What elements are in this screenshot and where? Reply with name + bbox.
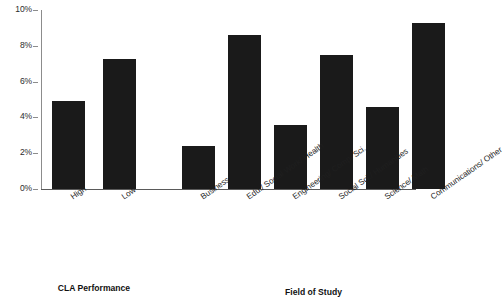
- y-tick-mark: [33, 153, 38, 154]
- y-tick-mark: [33, 189, 38, 190]
- bar: [52, 101, 85, 189]
- y-tick-mark: [33, 10, 38, 11]
- y-tick-label: 8%: [20, 40, 32, 50]
- y-tick-label: 6%: [20, 76, 32, 86]
- y-tick-label: 0%: [20, 183, 32, 193]
- bar: [412, 23, 445, 189]
- bar: [228, 35, 261, 189]
- y-tick-mark: [33, 46, 38, 47]
- y-tick-mark: [33, 82, 38, 83]
- group-title-cla-performance: CLA Performance: [4, 283, 184, 293]
- bar: [182, 146, 215, 189]
- bars-container: [41, 10, 416, 189]
- y-tick-label: 4%: [20, 111, 32, 121]
- bar: [103, 59, 136, 189]
- group-title-field-of-study: Field of Study: [224, 287, 404, 297]
- x-axis-line: [41, 189, 416, 190]
- y-tick-label: 10%: [15, 4, 32, 14]
- y-tick-label: 2%: [20, 147, 32, 157]
- y-tick-mark: [33, 117, 38, 118]
